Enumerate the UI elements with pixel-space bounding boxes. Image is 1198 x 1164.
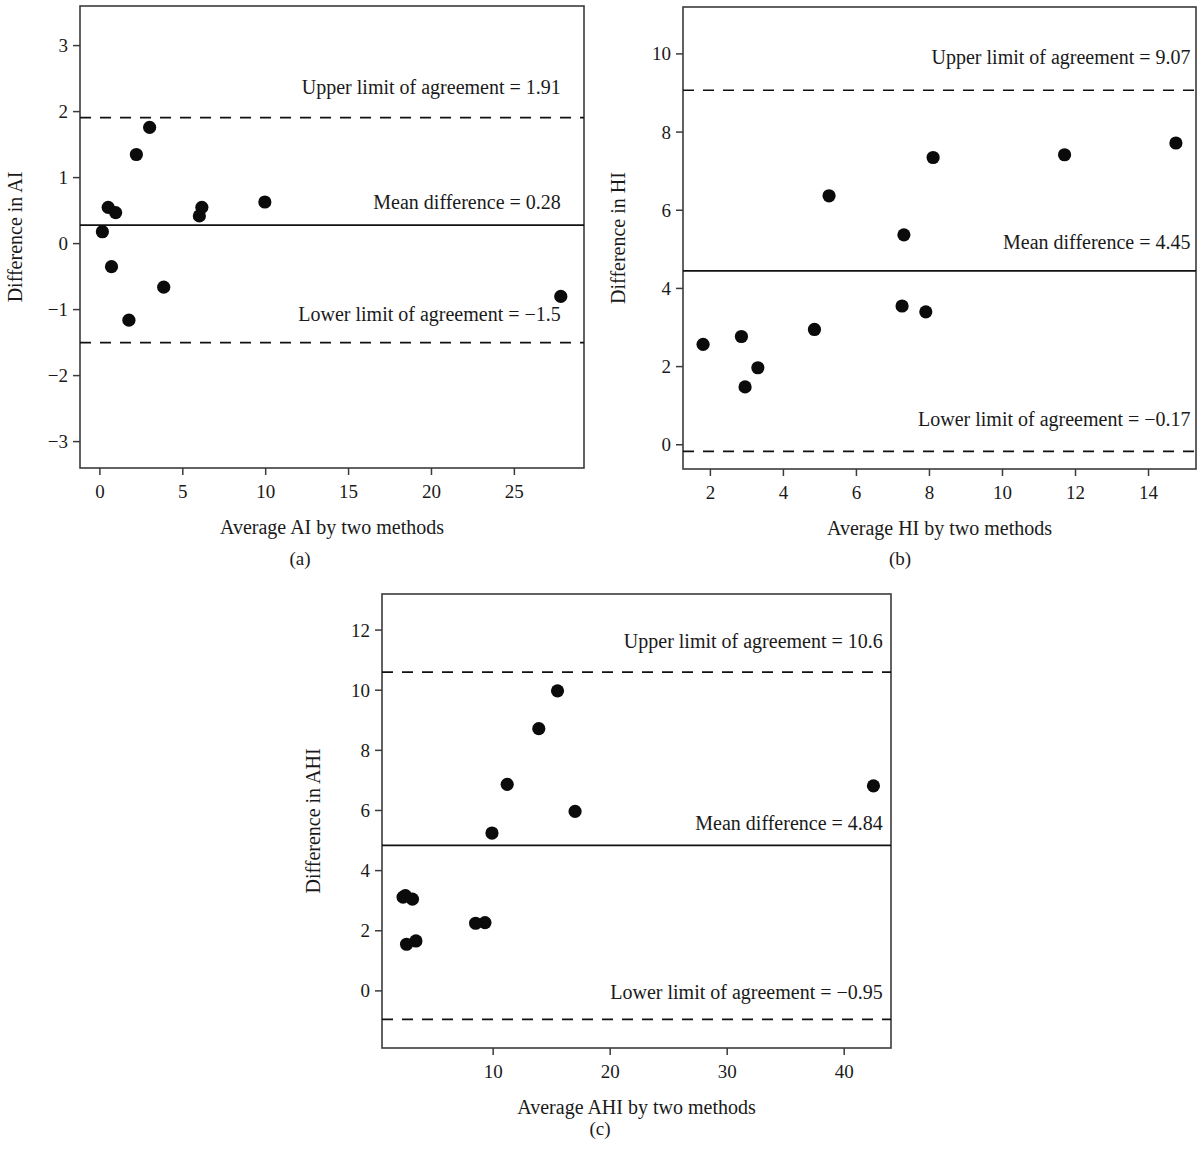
y-axis-tick-label: 8 — [361, 740, 371, 761]
data-point — [157, 281, 170, 294]
data-point — [751, 361, 764, 374]
mean-difference-annotation: Mean difference = 0.28 — [373, 191, 561, 213]
panel-a-caption: (a) — [250, 548, 350, 570]
data-point — [406, 893, 419, 906]
y-axis-tick-label: 4 — [361, 860, 371, 881]
panel-b-difference-in-hi: 24681012141086420Average HI by two metho… — [600, 0, 1198, 520]
data-point — [822, 189, 835, 202]
data-point — [895, 299, 908, 312]
data-point — [919, 305, 932, 318]
y-axis-tick-label: 10 — [351, 680, 370, 701]
panel-a-difference-in-ai: 05101520253210−1−2−3Average AI by two me… — [0, 0, 600, 520]
x-axis-tick-label: 25 — [505, 481, 524, 502]
panel-c-difference-in-ahi: 10203040121086420Average AHI by two meth… — [280, 578, 920, 1108]
y-axis-tick-label: 0 — [662, 434, 672, 455]
data-point — [568, 805, 581, 818]
lower-limit-annotation: Lower limit of agreement = −1.5 — [298, 303, 560, 326]
data-point — [96, 225, 109, 238]
x-axis-tick-label: 0 — [95, 481, 105, 502]
data-point — [143, 121, 156, 134]
x-axis-title: Average AI by two methods — [220, 516, 444, 539]
y-axis-tick-label: 2 — [361, 920, 371, 941]
lower-limit-annotation: Lower limit of agreement = −0.17 — [918, 408, 1190, 431]
y-axis-title: Difference in AHI — [302, 748, 324, 893]
panel-b-plot: 24681012141086420Average HI by two metho… — [600, 0, 1198, 520]
y-axis-tick-label: −3 — [48, 431, 68, 452]
panel-b-caption: (b) — [850, 548, 950, 570]
data-point — [130, 148, 143, 161]
data-point — [1169, 136, 1182, 149]
figure-bland-altman-panels: 05101520253210−1−2−3Average AI by two me… — [0, 0, 1198, 1164]
y-axis-tick-label: 6 — [662, 200, 672, 221]
x-axis-title: Average AHI by two methods — [517, 1096, 756, 1119]
y-axis-tick-label: −1 — [48, 299, 68, 320]
data-point — [195, 201, 208, 214]
y-axis-title: Difference in HI — [607, 172, 629, 304]
data-point — [258, 195, 271, 208]
data-point — [867, 779, 880, 792]
upper-limit-annotation: Upper limit of agreement = 1.91 — [302, 76, 561, 99]
panel-c-caption: (c) — [550, 1118, 650, 1140]
x-axis-tick-label: 10 — [484, 1061, 503, 1082]
y-axis-tick-label: 0 — [361, 980, 371, 1001]
data-point — [808, 323, 821, 336]
x-axis-tick-label: 5 — [178, 481, 188, 502]
y-axis-tick-label: 0 — [59, 233, 69, 254]
data-point — [1058, 148, 1071, 161]
x-axis-tick-label: 40 — [835, 1061, 854, 1082]
data-point — [409, 934, 422, 947]
y-axis-tick-label: −2 — [48, 365, 68, 386]
data-point — [696, 338, 709, 351]
upper-limit-annotation: Upper limit of agreement = 10.6 — [624, 630, 883, 653]
y-axis-tick-label: 10 — [652, 43, 671, 64]
data-point — [478, 916, 491, 929]
panel-c-plot: 10203040121086420Average AHI by two meth… — [280, 578, 920, 1108]
y-axis-tick-label: 12 — [351, 620, 370, 641]
y-axis-tick-label: 1 — [59, 167, 69, 188]
panel-a-plot: 05101520253210−1−2−3Average AI by two me… — [0, 0, 600, 520]
x-axis-tick-label: 14 — [1139, 482, 1159, 503]
y-axis-tick-label: 6 — [361, 800, 371, 821]
x-axis-tick-label: 4 — [779, 482, 789, 503]
y-axis-tick-label: 3 — [59, 35, 69, 56]
mean-difference-annotation: Mean difference = 4.84 — [695, 812, 883, 834]
x-axis-tick-label: 2 — [706, 482, 716, 503]
upper-limit-annotation: Upper limit of agreement = 9.07 — [932, 46, 1191, 69]
lower-limit-annotation: Lower limit of agreement = −0.95 — [610, 981, 882, 1004]
x-axis-title: Average HI by two methods — [827, 517, 1052, 540]
x-axis-tick-label: 6 — [852, 482, 862, 503]
data-point — [897, 228, 910, 241]
data-point — [532, 722, 545, 735]
y-axis-tick-label: 2 — [59, 101, 69, 122]
y-axis-tick-label: 2 — [662, 356, 672, 377]
data-point — [738, 380, 751, 393]
y-axis-title: Difference in AI — [4, 172, 26, 303]
x-axis-tick-label: 20 — [422, 481, 441, 502]
x-axis-tick-label: 15 — [339, 481, 358, 502]
data-point — [501, 778, 514, 791]
data-point — [109, 206, 122, 219]
y-axis-tick-label: 8 — [662, 122, 672, 143]
data-point — [122, 314, 135, 327]
x-axis-tick-label: 20 — [601, 1061, 620, 1082]
x-axis-tick-label: 10 — [256, 481, 275, 502]
data-point — [105, 260, 118, 273]
mean-difference-annotation: Mean difference = 4.45 — [1003, 231, 1191, 253]
data-point — [554, 290, 567, 303]
data-point — [927, 151, 940, 164]
x-axis-tick-label: 8 — [925, 482, 935, 503]
data-point — [735, 330, 748, 343]
data-point — [551, 684, 564, 697]
x-axis-tick-label: 10 — [993, 482, 1012, 503]
x-axis-tick-label: 30 — [718, 1061, 737, 1082]
y-axis-tick-label: 4 — [662, 278, 672, 299]
data-point — [485, 826, 498, 839]
x-axis-tick-label: 12 — [1066, 482, 1085, 503]
